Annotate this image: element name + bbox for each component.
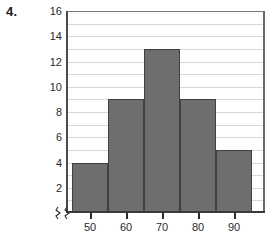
- y-axis-tick-label: 14: [36, 30, 62, 42]
- gridline: [68, 24, 263, 25]
- x-axis-tick-label: 50: [70, 221, 110, 233]
- histogram-bar: [216, 150, 252, 213]
- y-axis-tick-label: 2: [36, 182, 62, 194]
- x-axis-tick-mark: [90, 213, 92, 219]
- y-axis-tick-label: 6: [36, 131, 62, 143]
- x-axis-tick-mark: [162, 213, 164, 219]
- x-axis-tick-mark: [126, 213, 128, 219]
- gridline: [68, 36, 263, 37]
- histogram-bar: [180, 99, 216, 213]
- y-axis-tick-labels: 161412108642: [30, 11, 62, 213]
- y-axis-tick-label: 16: [36, 5, 62, 17]
- problem-number-label: 4.: [6, 4, 17, 19]
- y-axis-tick-label: 8: [36, 106, 62, 118]
- plot-frame-right: [263, 11, 265, 213]
- histogram-bar: [108, 99, 144, 213]
- x-axis-tick-label: 80: [178, 221, 218, 233]
- axis-break-icon: [54, 206, 76, 220]
- x-axis-tick-label: 90: [214, 221, 254, 233]
- histogram-bar: [144, 49, 180, 213]
- histogram-bar: [72, 163, 108, 214]
- plot-area: [66, 11, 265, 213]
- x-axis-tick-mark: [234, 213, 236, 219]
- histogram-figure: 4. 161412108642 5060708090: [0, 0, 276, 247]
- x-axis-tick-label: 60: [106, 221, 146, 233]
- y-axis-tick-label: 10: [36, 81, 62, 93]
- plot-frame-top: [66, 11, 265, 12]
- y-axis-tick-label: 12: [36, 56, 62, 68]
- y-axis-tick-label: 4: [36, 157, 62, 169]
- y-axis-line: [66, 11, 68, 213]
- x-axis-tick-label: 70: [142, 221, 182, 233]
- x-axis-tick-mark: [198, 213, 200, 219]
